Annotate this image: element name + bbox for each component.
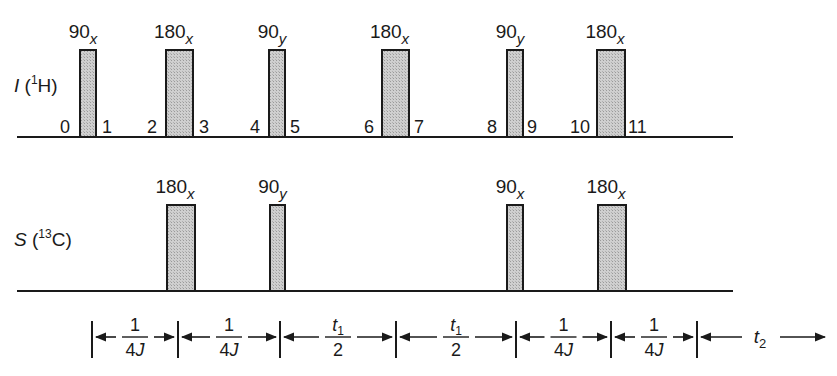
- pulse-sequence-diagram: I (1H) 90x180x90y180x90y180x 01234567891…: [0, 0, 837, 376]
- pulse-label: 180x: [586, 176, 626, 202]
- time-point-label: 8: [487, 117, 497, 137]
- pulse-180-x: 180x: [585, 21, 625, 137]
- channel-label-s: S (13C): [14, 227, 72, 250]
- delay-interval: 14J: [520, 315, 607, 360]
- pulse-block: [166, 50, 193, 137]
- pulse-block: [597, 50, 625, 137]
- pulse-90-y: 90y: [258, 21, 288, 137]
- time-point-label: 0: [60, 117, 70, 137]
- pulse-label: 180x: [154, 21, 194, 47]
- channel-label-i: I (1H): [14, 73, 58, 96]
- pulse-label: 90y: [496, 21, 526, 47]
- pulse-block: [270, 205, 285, 291]
- delay-numerator: 1: [649, 315, 659, 335]
- delay-denominator: 2: [451, 340, 461, 360]
- delay-numerator: t1: [332, 315, 344, 338]
- pulse-label: 180x: [585, 21, 625, 47]
- delay-denominator: 4J: [125, 340, 145, 360]
- pulse-label: 180x: [370, 21, 410, 47]
- pulse-label: 90y: [258, 21, 288, 47]
- pulse-180-x: 180x: [154, 21, 194, 137]
- pulse-block: [167, 205, 195, 291]
- pulse-90-x: 90x: [69, 21, 98, 137]
- pulse-180-x: 180x: [155, 176, 195, 291]
- pulse-90-y: 90y: [496, 21, 526, 137]
- delay-numerator: t1: [450, 315, 462, 338]
- pulse-block: [598, 205, 626, 291]
- time-point-label: 5: [290, 117, 300, 137]
- delay-denominator: 4J: [219, 340, 239, 360]
- time-point-label: 3: [199, 117, 209, 137]
- delay-interval: t12: [284, 315, 392, 360]
- delay-numerator: 1: [130, 315, 140, 335]
- time-point-label: 10: [570, 117, 590, 137]
- delay-interval: 14J: [182, 315, 276, 360]
- delay-numerator: 1: [224, 315, 234, 335]
- delay-denominator: 2: [333, 340, 343, 360]
- pulse-180-x: 180x: [370, 21, 410, 137]
- time-point-label: 9: [527, 117, 537, 137]
- channel-s-carbon: S (13C) 180x90y90x180x: [14, 176, 733, 291]
- pulse-block: [80, 50, 96, 137]
- time-point-label: 2: [147, 117, 157, 137]
- pulse-block: [269, 50, 285, 137]
- delay-numerator: 1: [558, 315, 568, 335]
- time-point-label: 6: [364, 117, 374, 137]
- pulse-block: [507, 50, 523, 137]
- delay-denominator: 4J: [554, 340, 574, 360]
- pulse-180-x: 180x: [586, 176, 626, 291]
- pulse-label: 90x: [69, 21, 98, 47]
- delay-denominator: 4J: [644, 340, 664, 360]
- time-point-label: 11: [628, 117, 647, 137]
- acquisition-label: t2: [754, 326, 767, 351]
- time-point-label: 1: [102, 117, 112, 137]
- delay-timeline: 14J14Jt12t1214J14Jt2: [92, 315, 825, 360]
- pulse-90-x: 90x: [496, 176, 525, 291]
- pulse-block: [507, 205, 523, 291]
- delay-interval: 14J: [96, 315, 174, 360]
- time-point-label: 7: [414, 117, 424, 137]
- channel-i-proton: I (1H) 90x180x90y180x90y180x 01234567891…: [14, 21, 733, 137]
- pulse-block: [382, 50, 409, 137]
- delay-interval: t12: [400, 315, 512, 360]
- time-point-label: 4: [250, 117, 260, 137]
- pulse-label: 90y: [258, 176, 288, 202]
- pulse-label: 180x: [155, 176, 195, 202]
- pulse-90-y: 90y: [258, 176, 288, 291]
- pulse-label: 90x: [496, 176, 525, 202]
- acquisition-period: t2: [701, 326, 825, 351]
- delay-interval: 14J: [615, 315, 693, 360]
